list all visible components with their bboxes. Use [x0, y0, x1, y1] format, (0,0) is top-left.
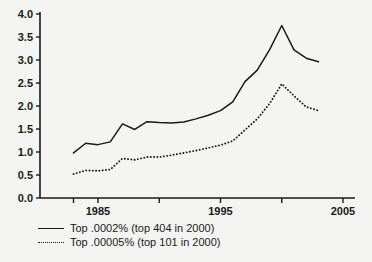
- legend-line-solid-icon: [38, 222, 64, 234]
- x-axis-tick-label: 1995: [208, 205, 232, 217]
- legend-item: Top .00005% (top 101 in 2000): [38, 235, 338, 248]
- y-axis-tick-label: 0.5: [18, 169, 33, 181]
- data-series-line: [74, 84, 319, 174]
- legend-item-label: Top .00005% (top 101 in 2000): [70, 236, 220, 248]
- data-series-line: [74, 26, 319, 153]
- x-axis: 198519952005: [40, 198, 355, 217]
- legend-item-label: Top .0002% (top 404 in 2000): [70, 222, 214, 234]
- x-axis-tick-label: 1985: [86, 205, 110, 217]
- y-axis-tick-label: 2.0: [18, 100, 33, 112]
- y-axis-tick-label: 0.0: [18, 192, 33, 204]
- data-series-group: [74, 26, 319, 175]
- chart-legend: Top .0002% (top 404 in 2000) Top .00005%…: [38, 221, 338, 249]
- chart-figure: 0.00.51.01.52.02.53.03.54.0 198519952005…: [0, 0, 372, 262]
- y-axis-tick-label: 1.0: [18, 146, 33, 158]
- y-axis-tick-label: 3.0: [18, 54, 33, 66]
- y-axis-tick-label: 1.5: [18, 123, 33, 135]
- legend-line-dotted-icon: [38, 236, 64, 248]
- x-axis-tick-label: 2005: [331, 205, 355, 217]
- legend-item: Top .0002% (top 404 in 2000): [38, 221, 338, 234]
- y-axis: 0.00.51.01.52.02.53.03.54.0: [18, 8, 40, 204]
- y-axis-tick-label: 3.5: [18, 31, 33, 43]
- y-axis-tick-label: 2.5: [18, 77, 33, 89]
- y-axis-tick-label: 4.0: [18, 8, 33, 20]
